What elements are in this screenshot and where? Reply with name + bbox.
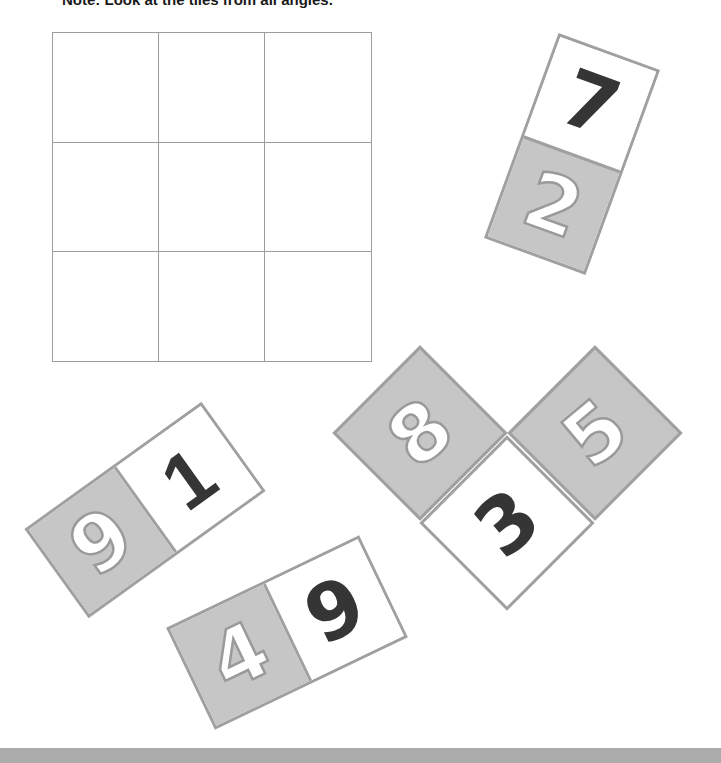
digit: 7 xyxy=(551,57,629,149)
digit: 9 xyxy=(293,562,376,656)
digit: 2 xyxy=(514,158,592,250)
digit: 9 xyxy=(57,494,147,589)
tile-7-2[interactable]: 7 2 xyxy=(483,33,659,275)
tile-9-1[interactable]: 9 1 xyxy=(24,402,265,619)
grid-cell[interactable] xyxy=(52,32,160,143)
instruction-note: Note: Look at the tiles from all angles. xyxy=(62,0,333,8)
grid-cell[interactable] xyxy=(264,32,372,143)
bottom-bar xyxy=(0,748,721,763)
grid-cell[interactable] xyxy=(264,142,372,253)
answer-grid xyxy=(52,32,372,362)
grid-cell[interactable] xyxy=(158,142,266,253)
grid-cell[interactable] xyxy=(158,32,266,143)
grid-cell[interactable] xyxy=(52,251,160,362)
grid-cell[interactable] xyxy=(52,142,160,253)
digit: 5 xyxy=(549,386,641,481)
digit: 8 xyxy=(374,386,466,481)
digit: 1 xyxy=(148,434,229,523)
grid-cell[interactable] xyxy=(264,251,372,362)
tile-4-9[interactable]: 4 9 xyxy=(166,535,408,729)
grid-cell[interactable] xyxy=(158,251,266,362)
digit: 4 xyxy=(198,608,281,702)
digit: 3 xyxy=(461,476,553,571)
